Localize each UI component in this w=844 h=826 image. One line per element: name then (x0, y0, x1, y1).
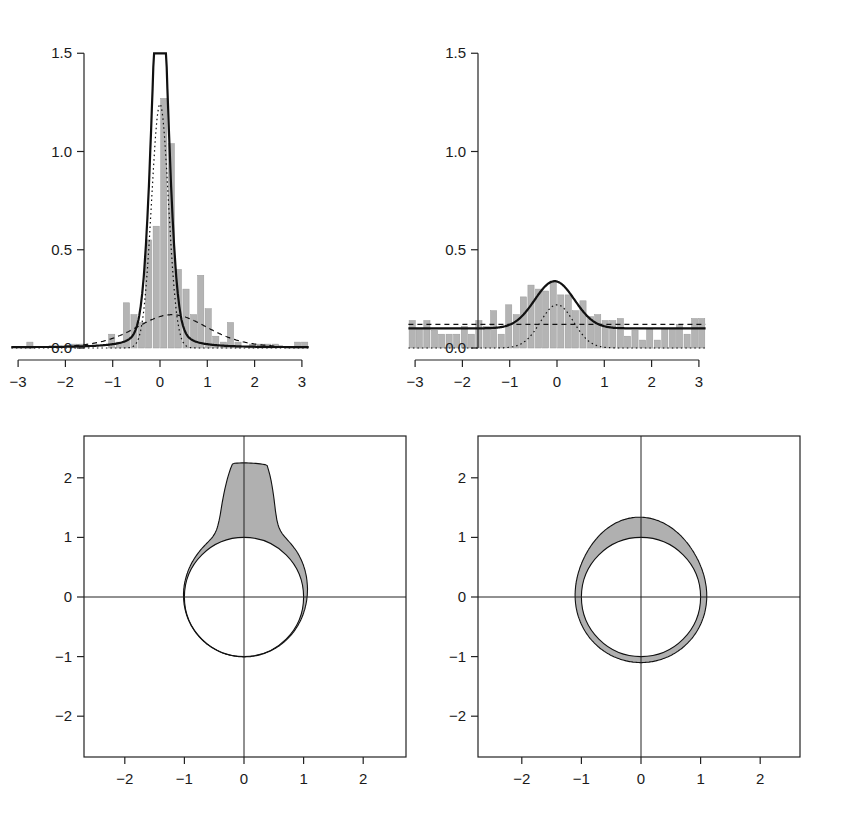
histogram-bar (617, 319, 623, 349)
histogram-bar (416, 328, 422, 348)
x-tick-label: −1 (573, 770, 590, 787)
x-tick-label: 1 (299, 770, 307, 787)
y-tick-label: −1 (55, 648, 72, 665)
x-tick-label: −1 (176, 770, 193, 787)
histogram-bar (205, 309, 211, 348)
y-tick-label: 0.5 (51, 241, 72, 258)
y-tick-label: −2 (449, 707, 466, 724)
y-axis: −2−1012 (449, 469, 478, 724)
component-curve-1 (11, 104, 308, 348)
y-tick-label: 2 (64, 469, 72, 486)
histogram-bar (647, 328, 653, 348)
histogram-bar (595, 315, 601, 348)
histogram-bar (699, 319, 705, 349)
y-tick-label: 1.5 (51, 44, 72, 61)
histogram-bar (109, 334, 115, 348)
histogram-bar (543, 291, 549, 348)
y-tick-label: 1.0 (51, 143, 72, 160)
histogram-bar (520, 297, 526, 348)
histogram-bar (491, 311, 497, 348)
histogram-bar (550, 281, 556, 348)
histogram-bar (198, 275, 204, 348)
x-tick-label: 2 (647, 373, 655, 390)
histogram-bar (654, 340, 660, 348)
histogram-bar (153, 226, 159, 348)
x-tick-label: −2 (57, 373, 74, 390)
x-tick-label: 0 (637, 770, 645, 787)
x-tick-label: 2 (250, 373, 258, 390)
histogram-bar (632, 330, 638, 348)
y-tick-label: 1 (64, 528, 72, 545)
density-curve (11, 53, 308, 347)
y-tick-label: 0.0 (51, 339, 72, 356)
x-axis: −2−1012 (513, 757, 764, 787)
x-tick-label: −3 (407, 373, 424, 390)
histogram-panel-top-left: 0.00.51.01.5−3−2−10123 (10, 44, 309, 390)
histogram-bar (161, 98, 167, 348)
x-tick-label: 3 (298, 373, 306, 390)
x-tick-label: 3 (695, 373, 703, 390)
x-tick-label: 1 (203, 373, 211, 390)
histogram-bar (439, 334, 445, 348)
x-tick-label: −2 (454, 373, 471, 390)
y-tick-label: 0.0 (445, 339, 466, 356)
density-band (184, 463, 308, 657)
y-axis: −2−1012 (55, 469, 84, 724)
x-axis: −3−2−10123 (407, 360, 704, 390)
x-tick-label: 0 (156, 373, 164, 390)
histogram-bar (468, 334, 474, 348)
x-tick-label: −2 (513, 770, 530, 787)
x-axis: −3−2−10123 (10, 360, 307, 390)
y-tick-label: 2 (458, 469, 466, 486)
circular-plot-bottom-right: −2−1012−2−1012 (449, 436, 800, 787)
y-tick-label: −2 (55, 707, 72, 724)
x-tick-label: −2 (116, 770, 133, 787)
histogram-bar (191, 315, 197, 348)
histogram-bar (624, 336, 630, 348)
y-tick-label: 1.5 (445, 44, 466, 61)
y-tick-label: 0 (458, 588, 466, 605)
histogram-bar (498, 334, 504, 348)
y-tick-label: 0 (64, 588, 72, 605)
x-tick-label: 1 (696, 770, 704, 787)
circular-plot-bottom-left: −2−1012−2−1012 (55, 436, 406, 787)
x-tick-label: 0 (553, 373, 561, 390)
x-axis: −2−1012 (116, 757, 367, 787)
x-tick-label: −1 (104, 373, 121, 390)
histogram-bar (640, 340, 646, 348)
x-tick-label: −3 (10, 373, 27, 390)
histogram-bar (227, 323, 233, 349)
x-tick-label: 1 (600, 373, 608, 390)
histogram-bar (662, 328, 668, 348)
x-tick-label: −1 (501, 373, 518, 390)
histogram-bar (669, 328, 675, 348)
x-tick-label: 2 (359, 770, 367, 787)
y-axis: 0.00.51.01.5 (51, 44, 84, 356)
histogram-bar (572, 311, 578, 348)
x-tick-label: 2 (756, 770, 764, 787)
histogram-bar (483, 326, 489, 348)
y-tick-label: 1 (458, 528, 466, 545)
y-tick-label: −1 (449, 648, 466, 665)
y-tick-label: 1.0 (445, 143, 466, 160)
histogram-bar (431, 330, 437, 348)
figure: 0.00.51.01.5−3−2−10123 0.00.51.01.5−3−2−… (0, 0, 844, 826)
y-tick-label: 0.5 (445, 241, 466, 258)
histogram-bar (684, 334, 690, 348)
y-axis: 0.00.51.01.5 (445, 44, 478, 356)
histogram-bar (146, 240, 152, 348)
histogram-bars (27, 98, 308, 348)
histogram-bar (558, 295, 564, 348)
histogram-panel-top-right: 0.00.51.01.5−3−2−10123 (407, 44, 706, 390)
histogram-bar (692, 319, 698, 349)
histogram-bar (565, 295, 571, 348)
x-tick-label: 0 (240, 770, 248, 787)
